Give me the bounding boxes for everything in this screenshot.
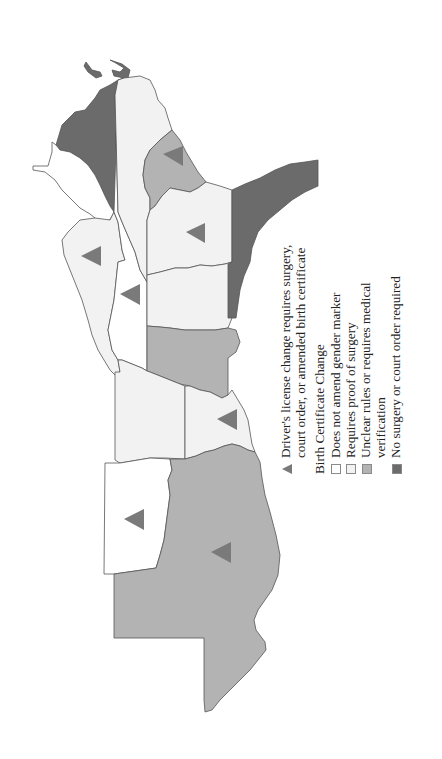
- legend-label: Unclear rules or requires medical verifi…: [358, 242, 388, 458]
- swatch-white-icon: [331, 464, 341, 474]
- legend-row-no-surgery: No surgery or court order required: [388, 242, 403, 474]
- region-dark-island: [84, 62, 102, 78]
- legend-row-does-not-amend: Does not amend gender marker: [328, 242, 343, 474]
- legend-label: Requires proof of surgery: [343, 242, 358, 458]
- map-legend: Driver's license change requires surgery…: [278, 242, 418, 474]
- legend-label: No surgery or court order required: [388, 242, 403, 458]
- legend-heading: Birth Certificate Change: [312, 242, 327, 474]
- region-light-center: [147, 262, 232, 330]
- legend-label: Does not amend gender marker: [328, 242, 343, 458]
- swatch-light-icon: [346, 464, 356, 474]
- legend-row-triangle: Driver's license change requires surgery…: [278, 242, 308, 474]
- legend-row-unclear: Unclear rules or requires medical verifi…: [358, 242, 388, 474]
- legend-triangle-label: Driver's license change requires surgery…: [278, 242, 308, 458]
- legend-row-requires-surgery: Requires proof of surgery: [343, 242, 358, 474]
- swatch-dark-icon: [392, 464, 402, 474]
- triangle-icon: [282, 464, 292, 474]
- swatch-medium-icon: [362, 464, 372, 474]
